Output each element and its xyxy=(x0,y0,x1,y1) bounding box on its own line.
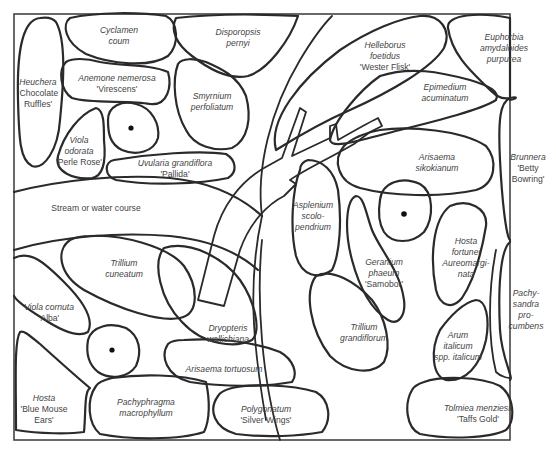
cultivar-name: 'Pallida' xyxy=(138,169,213,180)
plant-name-line: Aureomargi- xyxy=(442,258,489,269)
plant-name-line: cuneatum xyxy=(105,269,143,280)
plant-name-line: Disporopsis xyxy=(216,27,261,38)
plant-label-tolmiea: Tolmiea menziesii'Taffs Gold' xyxy=(444,403,512,425)
tree-trunk-2 xyxy=(401,211,407,217)
plant-name-line: scolo- xyxy=(293,211,333,222)
plant-name-line: Polygonatum xyxy=(240,404,291,415)
plant-label-smyrnium: Smyrniumperfoliatum xyxy=(191,91,234,113)
plant-label-arum: Arumitalicumspp. italicum xyxy=(434,330,482,363)
tree-trunk-3 xyxy=(109,347,114,352)
plant-label-anemone: Anemone nemerosa'Virescens' xyxy=(78,73,155,95)
plant-name-line: Dryopteris xyxy=(207,323,249,334)
plant-label-heuchera: Heuchera'Chocolate Ruffles' xyxy=(18,77,58,110)
plant-name-line: fortunei xyxy=(442,247,489,258)
tree-circle-2 xyxy=(379,181,431,241)
plant-name-line: foetidus xyxy=(360,51,410,62)
plant-name-line: cumbens xyxy=(509,321,544,332)
cultivar-name: 'Samobor' xyxy=(365,279,403,290)
plant-label-cyclamen: Cyclamencoum xyxy=(100,25,138,47)
plant-name-line: sandra xyxy=(509,299,544,310)
plant-name-line: pendrium xyxy=(293,222,333,233)
plant-label-geranium: Geraniumphaeum'Samobor' xyxy=(365,257,403,290)
plant-name-line: Hosta xyxy=(20,393,67,404)
plant-name-line: Trillium xyxy=(340,322,388,333)
plant-name-line: Arum xyxy=(434,330,482,341)
plant-label-pachyphragma: Pachyphragmamacrophyllum xyxy=(117,397,175,419)
plant-name-line: phaeum xyxy=(365,268,403,279)
plant-name-line: sikokianum xyxy=(416,163,459,174)
plant-label-viola-odorata: Violaodorata'Perle Rose' xyxy=(56,135,102,168)
plant-name-line: Smyrnium xyxy=(191,91,234,102)
plant-name-line: Brunnera xyxy=(510,152,545,163)
plant-label-viola-cornuta: Viola cornuta'Alba' xyxy=(24,302,74,324)
plant-name-line: Anemone nemerosa xyxy=(78,73,155,84)
cultivar-name: 'Wester Flisk' xyxy=(360,62,410,73)
plant-name-line: acuminatum xyxy=(422,93,469,104)
plant-name-line: Pachy- xyxy=(509,288,544,299)
plant-name-line: grandiflorum xyxy=(340,333,388,344)
plant-name-line: spp. italicum xyxy=(434,352,482,363)
plant-name-line: Arisaema tortuosum xyxy=(186,364,263,375)
plant-name-line: Helleborus xyxy=(360,40,410,51)
plant-name-line: perfoliatum xyxy=(191,102,234,113)
plant-name-line: Viola cornuta xyxy=(24,302,74,313)
plant-name-line: Epimedium xyxy=(422,82,469,93)
plant-label-polygonatum: Polygonatum'Silver Wings' xyxy=(240,404,291,426)
plant-name-line: Tolmiea menziesii xyxy=(444,403,512,414)
plant-label-disporopsis: Disporopsispernyi xyxy=(216,27,261,49)
plant-name-line: purpurea xyxy=(480,54,528,65)
cultivar-name: 'Silver Wings' xyxy=(240,415,291,426)
plant-name-line: Geranium xyxy=(365,257,403,268)
plant-label-asplenium: Aspleniumscolo-pendrium xyxy=(293,200,333,233)
cultivar-name: 'Alba' xyxy=(24,313,74,324)
plant-label-dryopteris: Dryopteriswallichiana xyxy=(207,323,249,345)
bed-brunnera xyxy=(499,98,510,240)
plant-label-uvularia: Uvularia grandiflora'Pallida' xyxy=(138,158,213,180)
tree-trunk-1 xyxy=(128,125,133,130)
plant-label-trillium-grandiflorum: Trilliumgrandiflorum xyxy=(340,322,388,344)
planting-plan xyxy=(0,0,556,455)
plant-label-helleborus: Helleborusfoetidus'Wester Flisk' xyxy=(360,40,410,73)
plant-name-line: amydaloides xyxy=(480,43,528,54)
plant-name-line: Pachyphragma xyxy=(117,397,175,408)
cultivar-name: 'Betty Bowring' xyxy=(510,163,545,185)
plant-name-line: Heuchera xyxy=(18,77,58,88)
plant-label-hosta-blue: Hosta'Blue Mouse Ears' xyxy=(20,393,67,426)
plant-name-line: Uvularia grandiflora xyxy=(138,158,213,169)
plant-name-line: wallichiana xyxy=(207,334,249,345)
plant-label-arisaema-tortuosum: Arisaema tortuosum xyxy=(186,364,263,375)
cultivar-name: 'Blue Mouse Ears' xyxy=(20,404,67,426)
plant-name-line: pro- xyxy=(509,310,544,321)
stream-label: Stream or water course xyxy=(51,203,140,214)
cultivar-name: 'Chocolate Ruffles' xyxy=(18,88,58,110)
plant-name-line: Cyclamen xyxy=(100,25,138,36)
plant-name-line: Hosta xyxy=(442,236,489,247)
plant-label-pachysandra: Pachy-sandrapro-cumbens xyxy=(509,288,544,332)
cultivar-name: 'Taffs Gold' xyxy=(444,414,512,425)
plant-label-trillium-cuneatum: Trilliumcuneatum xyxy=(105,258,143,280)
plant-name-line: Viola xyxy=(56,135,102,146)
plant-label-hosta-fortunei: HostafortuneiAureomargi-nata xyxy=(442,236,489,280)
plant-name-line: coum xyxy=(100,36,138,47)
plant-label-arisaema-sikokianum: Arisaemasikokianum xyxy=(416,152,459,174)
plant-name-line: Euphorbia xyxy=(480,32,528,43)
plant-name-line: italicum xyxy=(434,341,482,352)
plant-name-line: macrophyllum xyxy=(117,408,175,419)
plant-label-euphorbia: Euphorbiaamydaloidespurpurea xyxy=(480,32,528,65)
bed-brunnera-inner xyxy=(510,97,516,100)
plant-name-line: pernyi xyxy=(216,38,261,49)
plant-name-line: Trillium xyxy=(105,258,143,269)
plant-name-line: Asplenium xyxy=(293,200,333,211)
bed-arisaema-tortuosum xyxy=(165,339,295,385)
plant-name-line: nata xyxy=(442,269,489,280)
cultivar-name: 'Virescens' xyxy=(78,84,155,95)
plant-name-line: Arisaema xyxy=(416,152,459,163)
plant-label-brunnera: Brunnera'Betty Bowring' xyxy=(510,152,545,185)
plant-label-epimedium: Epimediumacuminatum xyxy=(422,82,469,104)
plant-name-line: odorata xyxy=(56,146,102,157)
cultivar-name: 'Perle Rose' xyxy=(56,157,102,168)
